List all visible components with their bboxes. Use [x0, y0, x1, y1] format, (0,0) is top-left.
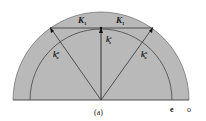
- outer-circle-label: o: [187, 105, 191, 114]
- inner-circle-label: e: [170, 105, 174, 114]
- wavevector-diagram: K1 K1 kez koo koo e o (a): [0, 0, 206, 121]
- figure-caption: (a): [94, 108, 103, 117]
